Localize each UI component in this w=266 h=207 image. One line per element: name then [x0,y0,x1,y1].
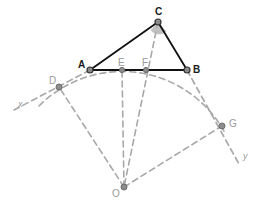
label-point-C: C [155,7,162,17]
point-B [184,67,190,73]
segment-CB [158,22,187,70]
label-point-B: B [193,65,200,75]
label-axis-x: x [18,100,23,109]
label-point-G: G [229,119,237,129]
label-point-E: E [118,58,125,68]
point-A [87,67,93,73]
point-O [121,184,127,190]
point-C [155,19,161,25]
radius-O-E [122,70,124,187]
geometry-figure: A B C D E F G O x y [0,0,266,207]
label-point-A: A [78,60,85,70]
geometry-canvas [0,0,266,207]
point-D [56,84,62,90]
cevian-C-F-O [124,22,158,187]
label-point-F: F [142,58,148,68]
point-G [219,123,225,129]
label-axis-y: y [243,152,248,161]
label-point-D: D [49,76,56,86]
ray-B-G-y [187,70,239,164]
point-E [119,67,124,72]
radius-O-G [124,126,222,187]
main-arc [39,71,225,133]
radius-O-D [59,87,124,187]
label-point-O: O [112,189,120,199]
point-F [143,67,148,72]
